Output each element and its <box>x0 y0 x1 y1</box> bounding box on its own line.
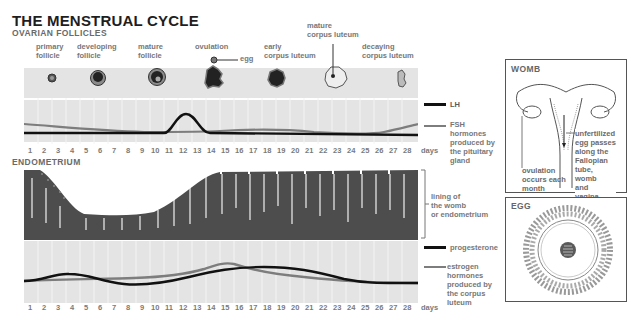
progesterone-legend-swatch <box>424 246 446 249</box>
decaying-corpus-luteum-icon <box>398 70 406 87</box>
endometrium-illustration <box>24 168 418 240</box>
endometrium-bracket-label: lining of the womb or endometrium <box>431 192 488 219</box>
estrogen-line <box>24 263 418 283</box>
egg-panel: EGG <box>505 197 627 302</box>
womb-egg-path-note: unfertilized egg passes along the Fallop… <box>575 129 616 201</box>
endometrium-section-label: ENDOMETRIUM <box>12 157 81 167</box>
mature-follicle-icon <box>149 69 166 86</box>
lh-legend-label: LH <box>450 100 460 109</box>
lh-legend-swatch <box>424 103 446 106</box>
egg-illustration <box>506 198 626 301</box>
fsh-legend-swatch <box>424 125 446 127</box>
early-corpus-luteum-icon <box>268 69 285 87</box>
progesterone-line <box>24 267 418 285</box>
grid-lines <box>38 98 402 144</box>
days-axis-top: 1234 5678 9101112 13141516 17181920 2122… <box>24 146 454 156</box>
ovarian-hormone-chart <box>24 241 418 303</box>
grid-lines <box>38 241 402 303</box>
follicle-illustrations <box>0 0 500 110</box>
days-axis-bottom: 1234 5678 9101112 13141516 17181920 2122… <box>24 303 454 313</box>
ovulation-follicle-icon <box>205 57 238 88</box>
womb-panel: WOMB ovulation occurs each month unferti… <box>505 59 627 193</box>
primary-follicle-icon <box>48 74 56 82</box>
estrogen-legend-label: estrogen hormones produced by the corpus… <box>447 262 492 307</box>
progesterone-legend-label: progesterone <box>450 243 498 252</box>
fsh-legend-label: FSH hormones produced by the pituitary g… <box>450 120 495 165</box>
developing-follicle-icon <box>91 71 106 86</box>
endometrium-bracket <box>420 168 430 240</box>
womb-ovulation-note: ovulation occurs each month <box>522 166 566 193</box>
estrogen-legend-swatch <box>424 266 446 268</box>
mature-corpus-luteum-icon <box>325 44 347 88</box>
pituitary-chart <box>24 98 418 144</box>
